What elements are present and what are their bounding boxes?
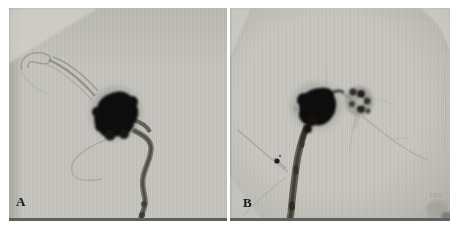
- frame-line-a: [9, 218, 227, 221]
- panel-label-a: A: [16, 194, 26, 209]
- film-corner-mark: FEM: [430, 192, 443, 198]
- angiogram-panel-a: A: [9, 8, 227, 227]
- angiogram-b-image: FEM B: [230, 8, 450, 221]
- angiogram-panel-b: FEM B: [230, 8, 450, 227]
- panel-label-b: B: [243, 195, 252, 210]
- frame-line-b: [230, 218, 450, 221]
- angiogram-a-image: A: [9, 8, 227, 221]
- angiography-figure: A: [0, 0, 458, 227]
